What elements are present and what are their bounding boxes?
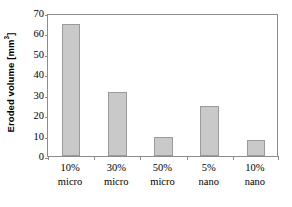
bar-chart: Eroded volume [mm3] 010203040506070 10%m… [0,0,292,207]
bar-30-micro [108,92,126,156]
x-tick-mark [233,156,234,160]
x-tick-label-line2: micro [139,175,185,189]
y-axis-title: Eroded volume [mm3] [0,0,20,165]
bar-5-nano [200,106,218,156]
y-tick-mark [45,117,48,118]
bar-10-nano [247,140,265,156]
y-axis-title-text: Eroded volume [mm3] [5,32,16,132]
x-tick-label-line1: 10% [47,161,93,175]
y-tick-label: 50 [18,50,44,61]
x-tick-mark [48,156,49,160]
y-axis-title-superscript: 3 [3,36,10,40]
y-tick-mark [45,97,48,98]
y-tick-mark [45,35,48,36]
y-axis-tick-labels: 010203040506070 [18,14,44,157]
y-tick-label: 30 [18,90,44,101]
x-tick-label-line2: nano [186,175,232,189]
y-tick-label: 10 [18,131,44,142]
y-tick-label: 40 [18,70,44,81]
y-tick-label: 0 [18,152,44,163]
x-tick-mark [187,156,188,160]
y-tick-mark [45,56,48,57]
x-tick-label-line1: 50% [139,161,185,175]
y-tick-mark [45,138,48,139]
x-axis-tick-labels: 10%micro30%micro50%micro5%nano10%nano [47,161,278,205]
y-axis-title-base: Eroded volume [mm [5,39,16,132]
x-tick-label-line2: nano [232,175,278,189]
bar-10-micro [62,24,80,156]
y-tick-mark [45,76,48,77]
bars-layer [48,15,277,156]
y-axis-title-tail: ] [5,32,16,35]
y-tick-label: 70 [18,9,44,20]
x-tick-label-line1: 30% [93,161,139,175]
x-tick-label: 30%micro [93,161,139,189]
x-tick-label: 10%micro [47,161,93,189]
x-tick-label-line1: 5% [186,161,232,175]
x-tick-mark [94,156,95,160]
x-tick-label-line2: micro [47,175,93,189]
bar-50-micro [154,137,172,156]
x-tick-label-line1: 10% [232,161,278,175]
x-tick-label-line2: micro [93,175,139,189]
x-tick-mark [140,156,141,160]
y-tick-label: 20 [18,111,44,122]
x-tick-label: 50%micro [139,161,185,189]
x-tick-label: 5%nano [186,161,232,189]
x-tick-label: 10%nano [232,161,278,189]
x-tick-mark [278,156,279,160]
plot-area [47,14,278,157]
y-tick-mark [45,15,48,16]
y-tick-label: 60 [18,29,44,40]
